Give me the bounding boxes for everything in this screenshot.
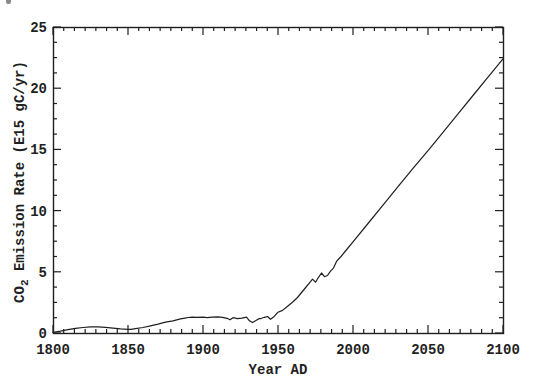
y-axis-title: CO2 Emission Rate (E15 gC/yr) — [12, 61, 31, 303]
y-axis-title-post: Emission Rate (E15 gC/yr) — [12, 61, 28, 279]
emissions-chart: 18001850190019502000205021000510152025 — [0, 0, 540, 391]
x-tick-label: 2050 — [411, 342, 445, 358]
y-axis-title-pre: CO — [12, 286, 28, 303]
y-tick-label: 0 — [39, 326, 47, 342]
x-axis-title: Year AD — [249, 362, 308, 378]
co2-emissions-figure: 18001850190019502000205021000510152025 Y… — [0, 0, 540, 391]
plot-frame-box — [54, 28, 504, 334]
emissions-curve — [53, 59, 503, 333]
y-axis-title-subscript: 2 — [19, 280, 31, 287]
x-tick-label: 2000 — [336, 342, 370, 358]
y-tick-label: 10 — [30, 204, 47, 220]
x-tick-label: 1950 — [261, 342, 295, 358]
y-tick-label: 15 — [30, 142, 47, 158]
emissions-line — [53, 59, 503, 333]
axis-tick-labels: 18001850190019502000205021000510152025 — [30, 20, 520, 358]
x-tick-label: 1900 — [186, 342, 220, 358]
axis-ticks — [53, 27, 503, 333]
y-tick-label: 5 — [39, 265, 47, 281]
x-tick-label: 1850 — [111, 342, 145, 358]
y-tick-label: 25 — [30, 20, 47, 36]
x-tick-label: 1800 — [36, 342, 70, 358]
y-tick-label: 20 — [30, 81, 47, 97]
plot-frame — [54, 28, 504, 334]
x-tick-label: 2100 — [486, 342, 520, 358]
